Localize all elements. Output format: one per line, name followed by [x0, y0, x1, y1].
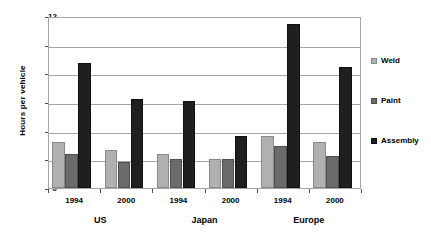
x-axis-year-label: 1994 — [170, 196, 188, 205]
legend-item-paint[interactable]: Paint — [371, 97, 401, 105]
x-axis-tick-mark — [100, 189, 101, 193]
legend-item-weld[interactable]: Weld — [371, 57, 400, 65]
x-axis-year-label: 2000 — [222, 196, 240, 205]
bar-weld-europe-2000 — [313, 142, 326, 188]
y-axis-title: Hours per vehicle — [18, 31, 27, 171]
x-axis-tick-mark — [257, 189, 258, 193]
bar-chart: Hours per vehicle 121086420 199420001994… — [0, 0, 431, 248]
bar-paint-us-1994 — [65, 154, 78, 188]
gridline — [49, 104, 360, 105]
bar-paint-europe-1994 — [274, 146, 287, 188]
assembly-swatch-icon — [371, 138, 377, 144]
legend-label: Weld — [381, 57, 400, 65]
x-axis-year-label: 2000 — [326, 196, 344, 205]
bar-assembly-japan-2000 — [235, 136, 248, 188]
bar-weld-europe-1994 — [261, 136, 274, 188]
bar-weld-us-2000 — [105, 150, 118, 188]
bar-assembly-europe-2000 — [339, 67, 352, 188]
legend-label: Paint — [381, 97, 401, 105]
x-axis-year-label: 1994 — [65, 196, 83, 205]
bar-weld-japan-1994 — [157, 154, 170, 188]
plot-area — [48, 17, 361, 189]
x-axis-tick-mark — [48, 189, 49, 193]
bar-assembly-japan-1994 — [183, 101, 196, 188]
x-axis-group-label-japan: Japan — [191, 215, 217, 225]
x-axis-tick-mark — [361, 189, 362, 193]
weld-swatch-icon — [371, 58, 377, 64]
x-axis-year-label: 1994 — [274, 196, 292, 205]
legend-label: Assembly — [381, 137, 419, 145]
bar-weld-japan-2000 — [209, 159, 222, 188]
bar-assembly-us-2000 — [131, 99, 144, 188]
legend-item-assembly[interactable]: Assembly — [371, 137, 419, 145]
x-axis-tick-mark — [205, 189, 206, 193]
paint-swatch-icon — [371, 98, 377, 104]
x-axis-group-label-europe: Europe — [293, 215, 324, 225]
gridline — [49, 47, 360, 48]
x-axis-year-label: 2000 — [117, 196, 135, 205]
gridline — [49, 133, 360, 134]
x-axis-tick-mark — [309, 189, 310, 193]
bar-paint-japan-2000 — [222, 159, 235, 188]
bar-assembly-europe-1994 — [287, 24, 300, 188]
x-axis-group-label-us: US — [94, 215, 107, 225]
bar-assembly-us-1994 — [78, 63, 91, 188]
bar-weld-us-1994 — [52, 142, 65, 188]
bar-paint-japan-1994 — [170, 159, 183, 188]
x-axis-tick-mark — [152, 189, 153, 193]
bar-paint-europe-2000 — [326, 156, 339, 188]
gridline — [49, 75, 360, 76]
bar-paint-us-2000 — [118, 162, 131, 188]
